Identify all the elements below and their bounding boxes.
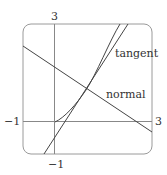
tangent-label: tangent <box>115 47 159 60</box>
x-min-label: −1 <box>4 115 20 128</box>
y-min-label: −1 <box>48 158 64 171</box>
normal-label: normal <box>106 88 146 101</box>
x-max-label: 3 <box>155 115 162 128</box>
curve-line <box>55 24 120 122</box>
chart: 3 −1 3 −1 tangent normal <box>0 0 167 175</box>
y-max-label: 3 <box>51 10 58 23</box>
